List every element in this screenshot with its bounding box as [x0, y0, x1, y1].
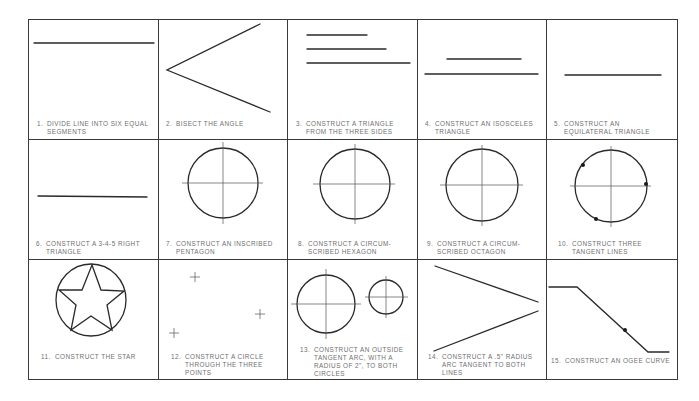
star-outline: [59, 265, 124, 330]
caption-line: CONSTRUCT A TRIANGLE: [306, 120, 394, 127]
caption-problem-15: 15.CONSTRUCT AN OGEE CURVE: [551, 357, 676, 365]
caption-line: FROM THE THREE SIDES: [296, 128, 414, 136]
problem-number: 15.: [551, 357, 565, 365]
caption-problem-4: 4.CONSTRUCT AN ISOSCELES TRIANGLE: [425, 120, 543, 136]
problem-number: 5.: [554, 120, 564, 128]
caption-line: THROUGH THE THREE: [171, 361, 286, 369]
caption-line: SCRIBED OCTAGON: [427, 248, 545, 256]
caption-problem-5: 5.CONSTRUCT AN EQUILATERAL TRIANGLE: [554, 120, 676, 136]
caption-line: CONSTRUCT A CIRCUM-: [437, 240, 520, 247]
caption-line: RADIUS OF 2", TO BOTH: [300, 362, 415, 370]
problem-number: 13.: [300, 346, 314, 354]
caption-line: TANGENT ARC, WITH A: [300, 354, 415, 362]
upper-line-14: [435, 266, 538, 302]
problem-number: 12.: [171, 353, 185, 361]
caption-problem-7: 7.CONSTRUCT AN INSCRIBED PENTAGON: [166, 240, 284, 256]
caption-line: CONSTRUCT A 3-4-5 RIGHT: [46, 240, 140, 247]
tangent-point-3: [594, 217, 598, 221]
given-angle: [167, 24, 270, 112]
problem-number: 9.: [427, 240, 437, 248]
caption-line: CONSTRUCT AN OGEE CURVE: [565, 357, 670, 364]
caption-line: ARC TANGENT TO BOTH: [428, 361, 546, 369]
caption-line: TANGENT LINES: [558, 248, 676, 256]
caption-line: TRIANGLE: [425, 128, 543, 136]
given-line-6: [38, 196, 147, 197]
caption-problem-8: 8.CONSTRUCT A CIRCUM- SCRIBED HEXAGON: [298, 240, 416, 256]
caption-problem-14: 14.CONSTRUCT A .5" RADIUS ARC TANGENT TO…: [428, 353, 546, 377]
caption-line: SCRIBED HEXAGON: [298, 248, 416, 256]
circle-11: [56, 264, 126, 336]
caption-line: CONSTRUCT AN INSCRIBED: [176, 240, 273, 247]
problem-number: 11.: [41, 353, 55, 361]
tangent-point-1: [581, 163, 585, 167]
caption-line: DIVIDE LINE INTO SIX EQUAL: [47, 120, 148, 127]
worksheet: 1.DIVIDE LINE INTO SIX EQUAL SEGMENTS 2.…: [0, 0, 699, 401]
caption-problem-1: 1.DIVIDE LINE INTO SIX EQUAL SEGMENTS: [37, 120, 155, 136]
problem-number: 6.: [36, 240, 46, 248]
problem-number: 3.: [296, 120, 306, 128]
caption-problem-12: 12.CONSTRUCT A CIRCLE THROUGH THE THREE …: [171, 353, 286, 377]
caption-line: CONSTRUCT THREE: [572, 240, 642, 247]
construction-figures: [0, 0, 699, 401]
caption-problem-3: 3.CONSTRUCT A TRIANGLE FROM THE THREE SI…: [296, 120, 414, 136]
caption-line: CONSTRUCT AN OUTSIDE: [314, 346, 403, 353]
caption-problem-10: 10.CONSTRUCT THREE TANGENT LINES: [558, 240, 676, 256]
caption-line: CONSTRUCT AN: [564, 120, 620, 127]
caption-line: CONSTRUCT THE STAR: [55, 353, 136, 360]
caption-line: CONSTRUCT A CIRCLE: [185, 353, 264, 360]
caption-line: CONSTRUCT AN ISOSCELES: [435, 120, 533, 127]
caption-line: CONSTRUCT A .5" RADIUS: [442, 353, 533, 360]
caption-line: CONSTRUCT A CIRCUM-: [308, 240, 391, 247]
ogee-midpoint: [623, 328, 627, 332]
problem-number: 7.: [166, 240, 176, 248]
tangent-point-2: [644, 182, 648, 186]
caption-problem-9: 9.CONSTRUCT A CIRCUM- SCRIBED OCTAGON: [427, 240, 545, 256]
caption-line: EQUILATERAL TRIANGLE: [554, 128, 676, 136]
problem-number: 4.: [425, 120, 435, 128]
caption-line: POINTS: [171, 369, 286, 377]
problem-number: 8.: [298, 240, 308, 248]
lower-line-14: [434, 311, 538, 351]
caption-line: SEGMENTS: [37, 128, 155, 136]
caption-line: BISECT THE ANGLE: [176, 120, 244, 127]
caption-problem-6: 6.CONSTRUCT A 3-4-5 RIGHT TRIANGLE: [36, 240, 154, 256]
problem-number: 2.: [166, 120, 176, 128]
caption-problem-11: 11.CONSTRUCT THE STAR: [41, 353, 156, 361]
caption-line: PENTAGON: [166, 248, 284, 256]
caption-line: TRIANGLE: [36, 248, 154, 256]
ogee-guide-line: [549, 287, 669, 352]
caption-problem-13: 13.CONSTRUCT AN OUTSIDE TANGENT ARC, WIT…: [300, 346, 415, 378]
problem-number: 1.: [37, 120, 47, 128]
caption-line: LINES: [428, 369, 546, 377]
problem-number: 10.: [558, 240, 572, 248]
problem-number: 14.: [428, 353, 442, 361]
caption-problem-2: 2.BISECT THE ANGLE: [166, 120, 284, 128]
caption-line: CIRCLES: [300, 370, 415, 378]
